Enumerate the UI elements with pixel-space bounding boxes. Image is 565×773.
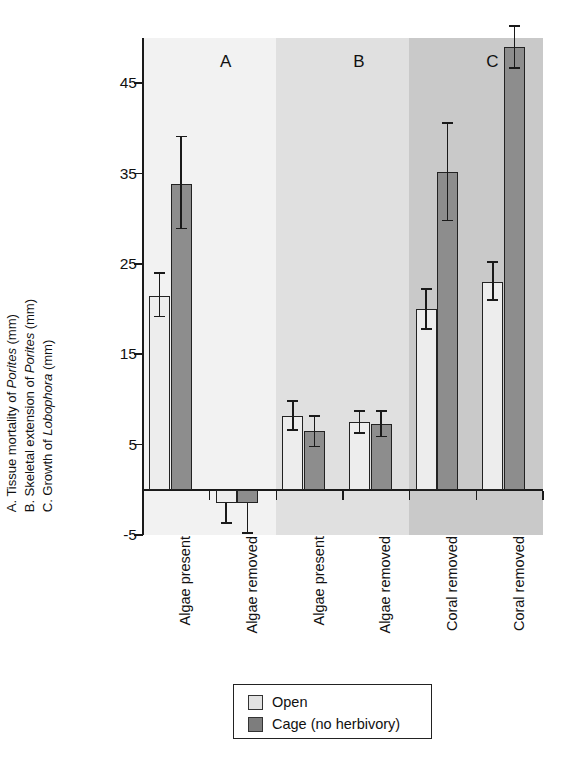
y-axis-title-c-italic: Lobophora (40, 373, 55, 435)
panel-letter-c: C (486, 52, 498, 72)
error-bar-cap (287, 400, 298, 402)
error-bar-whisker (247, 503, 249, 533)
x-axis-tick (542, 491, 544, 500)
error-bar-whisker (359, 411, 361, 433)
error-bar-cap (309, 415, 320, 417)
y-axis-title-b-prefix: B. Skeletal extension of (22, 373, 37, 512)
error-bar-whisker (514, 26, 516, 68)
error-bar-cap (287, 429, 298, 431)
legend-label-open: Open (272, 694, 307, 710)
error-bar-cap (509, 67, 520, 69)
panel-letter-a: A (220, 52, 231, 72)
y-axis-tick-label-group: 453525155-5 (91, 38, 137, 535)
error-bar-cap (154, 316, 165, 318)
error-bar-cap (354, 410, 365, 412)
y-axis-title-a-italic: Porites (4, 348, 19, 388)
error-bar-cap (487, 261, 498, 263)
bar (482, 282, 503, 490)
x-axis-label: Algae removed (377, 536, 393, 634)
y-axis-tick-label: -5 (123, 526, 137, 544)
error-bar-cap (376, 410, 387, 412)
error-bar-cap (376, 436, 387, 438)
x-axis-tick (476, 491, 478, 500)
x-axis-label: Algae present (311, 536, 327, 625)
error-bar-whisker (159, 273, 161, 316)
legend-item-cage: Cage (no herbivory) (248, 713, 431, 735)
error-bar-cap (442, 122, 453, 124)
bar (504, 47, 525, 490)
y-axis-line (142, 38, 144, 535)
y-axis-tick-label: 45 (120, 74, 137, 92)
error-bar-cap (354, 432, 365, 434)
error-bar-cap (442, 220, 453, 222)
y-axis-tick-label: 35 (120, 165, 137, 183)
error-bar-whisker (292, 401, 294, 430)
y-axis-title-c-suffix: (mm) (40, 340, 55, 374)
legend: Open Cage (no herbivory) (233, 684, 432, 739)
error-bar-cap (242, 532, 253, 534)
x-axis-label: Algae present (177, 536, 193, 625)
y-axis-title-a: A. Tissue mortality of Porites (mm) (5, 314, 18, 512)
error-bar-cap (221, 522, 232, 524)
plot-area: ABC 453525155-5 (143, 38, 543, 535)
y-axis-title-a-suffix: (mm) (4, 314, 19, 348)
x-axis-tick (342, 491, 344, 500)
error-bar-whisker (225, 503, 227, 523)
error-bar-cap (176, 136, 187, 138)
error-bar-cap (309, 446, 320, 448)
x-axis-label: Algae removed (244, 536, 260, 634)
error-bar-whisker (314, 416, 316, 447)
x-axis-label: Coral removed (511, 536, 527, 631)
y-axis-title-c-prefix: C. Growth of (40, 436, 55, 512)
error-bar-cap (176, 228, 187, 230)
panel-letter-b: B (353, 52, 364, 72)
error-bar-cap (487, 299, 498, 301)
x-axis-label: Coral removed (444, 536, 460, 631)
error-bar-whisker (180, 136, 182, 228)
x-axis-tick (209, 491, 211, 500)
bar (216, 490, 237, 504)
legend-swatch-open-icon (248, 695, 263, 710)
y-axis-title-b: B. Skeletal extension of Porites (mm) (23, 299, 36, 512)
y-axis-title-group: A. Tissue mortality of Porites (mm) B. S… (0, 0, 96, 520)
error-bar-whisker (492, 262, 494, 300)
y-axis-tick-label: 15 (120, 345, 137, 363)
y-axis-tick-label: 5 (128, 436, 137, 454)
legend-swatch-cage-icon (248, 717, 263, 732)
y-axis-title-b-italic: Porites (22, 333, 37, 373)
bar (416, 309, 437, 490)
bar (237, 490, 258, 504)
y-axis-title-c: C. Growth of Lobophora (mm) (41, 340, 54, 512)
legend-item-open: Open (248, 691, 431, 713)
y-axis-title-b-suffix: (mm) (22, 299, 37, 333)
bar (171, 184, 192, 489)
x-axis-tick (409, 491, 411, 500)
figure-bar-chart: A. Tissue mortality of Porites (mm) B. S… (0, 0, 565, 773)
error-bar-whisker (447, 123, 449, 221)
error-bar-whisker (425, 289, 427, 329)
legend-label-cage: Cage (no herbivory) (272, 716, 400, 732)
error-bar-cap (421, 328, 432, 330)
error-bar-whisker (380, 411, 382, 436)
x-axis-tick (276, 491, 278, 500)
error-bar-cap (509, 25, 520, 27)
y-axis-tick-label: 25 (120, 255, 137, 273)
error-bar-cap (154, 272, 165, 274)
y-axis-title-a-prefix: A. Tissue mortality of (4, 388, 19, 512)
x-axis-label-group: Algae presentAlgae removedAlgae presentA… (143, 536, 543, 686)
error-bar-cap (421, 288, 432, 290)
bar (149, 296, 170, 490)
